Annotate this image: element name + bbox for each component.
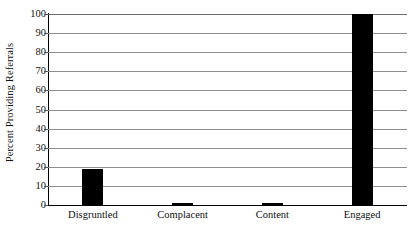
y-axis-tick-label: 60 (20, 85, 46, 96)
y-axis-tick-label: 80 (20, 47, 46, 58)
y-axis-tick-label: 50 (20, 105, 46, 116)
y-axis-tick-mark (44, 90, 48, 91)
bar-disgruntled (82, 169, 103, 205)
x-axis-tick-label: Engaged (344, 208, 381, 221)
y-axis-tick-label: 20 (20, 162, 46, 173)
bar-content (262, 203, 283, 205)
y-axis-tick-mark (44, 14, 48, 15)
y-axis-tick-labels: 0102030405060708090100 (20, 0, 46, 233)
y-axis-tick-mark (44, 33, 48, 34)
y-axis-tick-mark (44, 186, 48, 187)
y-axis-tick-label: 90 (20, 28, 46, 39)
y-axis-title-text: Percent Providing Referrals (5, 43, 16, 162)
y-axis-tick-label: 40 (20, 124, 46, 135)
y-axis-tick-label: 100 (20, 9, 46, 20)
y-axis-tick-mark (44, 110, 48, 111)
bar-complacent (172, 203, 193, 205)
y-axis-tick-mark (44, 129, 48, 130)
y-axis-tick-label: 70 (20, 66, 46, 77)
y-axis-tick-mark (44, 167, 48, 168)
plot-area (48, 14, 407, 205)
y-axis-tick-mark (44, 205, 48, 206)
y-axis-tick-label: 10 (20, 181, 46, 192)
gridline (48, 205, 407, 206)
y-axis-title: Percent Providing Referrals (0, 0, 20, 205)
x-axis-tick-label: Complacent (157, 208, 208, 221)
x-axis-tick-labels: DisgruntledComplacentContentEngaged (48, 208, 407, 228)
y-axis-tick-mark (44, 71, 48, 72)
x-axis-tick-label: Content (256, 208, 289, 221)
y-axis-tick-label: 0 (20, 200, 46, 211)
y-axis-tick-mark (44, 52, 48, 53)
x-axis-tick-label: Disgruntled (68, 208, 118, 221)
bar-engaged (352, 14, 373, 205)
y-axis-tick-label: 30 (20, 143, 46, 154)
y-axis-tick-mark (44, 148, 48, 149)
bar-chart-figure: Percent Providing Referrals 010203040506… (0, 0, 418, 233)
